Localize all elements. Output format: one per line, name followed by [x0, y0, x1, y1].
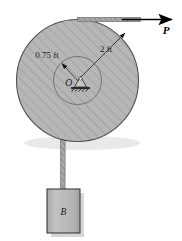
figure-canvas: P 2 ft 0.75 ft O — [0, 0, 182, 241]
center-label-o: O — [65, 78, 72, 88]
support-ground-bar — [71, 87, 90, 89]
drop-shadow-group — [24, 136, 140, 237]
pin-joint-icon — [79, 77, 82, 80]
inner-radius-label: 0.75 ft — [35, 50, 59, 60]
block-label-b: B — [61, 207, 67, 217]
mechanics-figure: P 2 ft 0.75 ft O — [0, 0, 182, 241]
outer-radius-label: 2 ft — [100, 44, 113, 54]
force-label-p: P — [163, 24, 170, 36]
hanging-block: B — [47, 189, 80, 233]
